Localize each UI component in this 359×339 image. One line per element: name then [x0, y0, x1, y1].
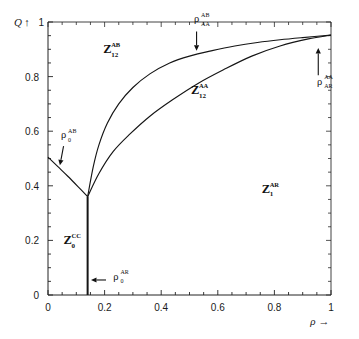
curve-upper-phase-boundary: [88, 35, 331, 197]
annotation-rho0-ar-base: ρ: [113, 271, 118, 282]
region-z0-cc: Z0CC: [64, 232, 82, 250]
annotation-rho0-ab: ρ0AB: [58, 128, 76, 166]
region-z0-cc-subscript: 0: [72, 242, 76, 250]
plot-canvas: 00.20.40.60.8100.20.40.60.81Q↑ρ→Z12ABZ12…: [0, 0, 359, 339]
annotation-rho0-ab-superscript: AB: [68, 128, 76, 134]
annotation-rhoaa-ab-base: ρ: [194, 13, 199, 24]
annotation-rho0-ar: ρ0AR: [91, 269, 129, 284]
y-tick-label: 0.4: [25, 181, 39, 192]
curve-lower-phase-boundary: [88, 35, 331, 197]
x-tick-label: 1: [328, 302, 334, 313]
phase-diagram-figure: 00.20.40.60.8100.20.40.60.81Q↑ρ→Z12ABZ12…: [0, 0, 359, 339]
annotations: ρ0ABρAAABρARAAρ0AR: [58, 12, 333, 285]
x-tick-label: 0.2: [98, 302, 112, 313]
axis-ticks: [48, 22, 331, 295]
x-tick-label: 0.8: [267, 302, 281, 313]
annotation-rhoaa-ab-subscript: AA: [201, 21, 210, 27]
region-z12-aa: Z12AA: [191, 82, 209, 100]
region-z12-ab-subscript: 12: [111, 51, 119, 59]
x-tick-label: 0.4: [154, 302, 168, 313]
x-tick-label: 0.6: [211, 302, 225, 313]
annotation-rhoar-aa-subscript: AR: [324, 83, 332, 89]
annotation-rho0-ar-subscript: 0: [120, 278, 123, 284]
region-labels: Z12ABZ12AAZ1ARZ0CC: [64, 41, 280, 250]
x-tick-label: 0: [45, 302, 51, 313]
annotation-rho0-ab-subscript: 0: [68, 137, 71, 143]
y-axis-arrow-icon: ↑: [24, 16, 30, 28]
region-z1-ar-superscript: AR: [270, 181, 280, 188]
region-z1-ar-subscript: 1: [270, 190, 274, 198]
annotation-rho0-ar-superscript: AR: [120, 269, 128, 275]
plot-frame: [48, 22, 331, 295]
annotation-rhoaa-ab-arrow-icon: [194, 45, 199, 51]
region-z12-ab: Z12AB: [103, 41, 121, 59]
annotation-rho0-ab-arrow-icon: [58, 159, 63, 165]
curve-left-phase-boundary: [48, 157, 88, 197]
axis-tick-labels: 00.20.40.60.8100.20.40.60.81: [25, 17, 334, 313]
y-tick-label: 0: [33, 290, 39, 301]
annotation-rho0-ab-base: ρ: [61, 129, 66, 140]
annotation-rhoar-aa-arrow-icon: [316, 48, 321, 54]
annotation-rhoaa-ab-superscript: AB: [201, 12, 209, 18]
annotation-rho0-ar-arrow-icon: [91, 277, 97, 282]
region-z12-aa-superscript: AA: [199, 82, 209, 89]
annotation-rho0-ab-arrow-shaft: [61, 146, 64, 160]
y-tick-label: 0.8: [25, 72, 39, 83]
y-tick-label: 0.2: [25, 235, 39, 246]
region-z12-ab-superscript: AB: [111, 41, 121, 48]
y-tick-label: 0.6: [25, 126, 39, 137]
region-z0-cc-superscript: CC: [72, 232, 82, 239]
x-axis-arrow-icon: →: [319, 315, 330, 327]
y-tick-label: 1: [38, 17, 44, 28]
x-axis-title: ρ: [309, 315, 315, 327]
region-z1-ar: Z1AR: [262, 181, 280, 199]
annotation-rhoaa-ab: ρAAAB: [194, 12, 210, 51]
region-z12-aa-subscript: 12: [199, 92, 207, 100]
annotation-rhoar-aa-superscript: AA: [324, 74, 333, 80]
annotation-rhoar-aa-base: ρ: [317, 76, 322, 87]
phase-boundary-curves: [48, 35, 331, 295]
y-axis-title: Q: [14, 16, 22, 28]
